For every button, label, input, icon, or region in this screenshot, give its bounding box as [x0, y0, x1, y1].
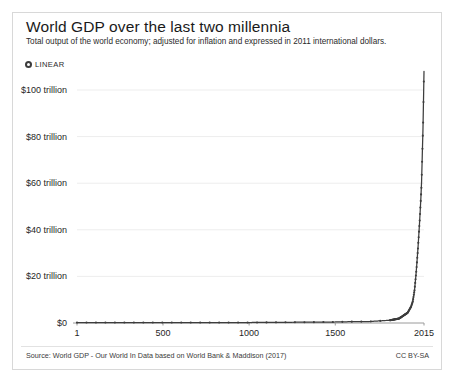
axis-lines [73, 323, 424, 326]
data-point [417, 252, 419, 254]
data-point [133, 321, 135, 323]
y-tick-label: $0 [13, 318, 67, 328]
data-point [413, 292, 415, 294]
data-point [322, 321, 324, 323]
data-point [370, 320, 372, 322]
data-point [412, 296, 414, 298]
gridlines [77, 90, 424, 276]
data-point [303, 321, 305, 323]
data-point [114, 322, 116, 324]
x-tick-label: 1000 [239, 328, 259, 338]
data-point [420, 200, 422, 202]
data-point [379, 320, 381, 322]
data-point [418, 231, 420, 233]
data-point [415, 274, 417, 276]
data-point [413, 294, 415, 296]
data-point [419, 219, 421, 221]
y-tick-label: $100 trillion [13, 85, 67, 95]
chart-card: World GDP over the last two millennia To… [12, 12, 442, 370]
footer-divider [21, 346, 433, 347]
x-tick-label: 500 [155, 328, 170, 338]
data-point [275, 321, 277, 323]
data-point [247, 321, 249, 323]
data-point [171, 321, 173, 323]
data-point [284, 321, 286, 323]
data-point [294, 321, 296, 323]
data-point [180, 321, 182, 323]
data-point [414, 286, 416, 288]
data-point [418, 225, 420, 227]
data-point [419, 206, 421, 208]
data-point [161, 321, 163, 323]
data-point [332, 321, 334, 323]
data-point [416, 261, 418, 263]
x-tick-label: 1500 [325, 328, 345, 338]
data-point [313, 321, 315, 323]
data-point [417, 242, 419, 244]
data-point [152, 321, 154, 323]
license-note: CC BY-SA [396, 351, 429, 360]
data-point [422, 122, 424, 124]
data-point [228, 321, 230, 323]
data-point [76, 322, 78, 324]
data-point [412, 298, 414, 300]
data-point [209, 321, 211, 323]
data-point [199, 321, 201, 323]
data-point [415, 271, 417, 273]
data-point [123, 321, 125, 323]
data-point [414, 282, 416, 284]
data-point [142, 321, 144, 323]
data-point [418, 236, 420, 238]
data-point [265, 321, 267, 323]
data-point [190, 321, 192, 323]
data-point [95, 322, 97, 324]
data-point [413, 289, 415, 291]
y-tick-label: $40 trillion [13, 225, 67, 235]
data-point [416, 266, 418, 268]
data-point [104, 322, 106, 324]
data-point [417, 247, 419, 249]
data-point [420, 193, 422, 195]
x-tick-label: 1 [74, 328, 79, 338]
series-markers [76, 81, 425, 324]
data-point [421, 174, 423, 176]
data-point [419, 213, 421, 215]
y-tick-label: $60 trillion [13, 178, 67, 188]
data-point [341, 321, 343, 323]
data-point [422, 101, 424, 103]
y-tick-label: $20 trillion [13, 271, 67, 281]
data-point [421, 148, 423, 150]
data-point [256, 321, 258, 323]
y-tick-label: $80 trillion [13, 132, 67, 142]
chart-canvas [13, 13, 442, 370]
data-point [420, 187, 422, 189]
data-point [351, 321, 353, 323]
data-point [237, 321, 239, 323]
source-note: Source: World GDP - Our World In Data ba… [26, 351, 286, 360]
data-point [415, 278, 417, 280]
data-point [360, 321, 362, 323]
data-point [421, 161, 423, 163]
series-line-world-gdp [77, 71, 424, 322]
data-point [85, 322, 87, 324]
plot-area: $0$20 trillion$40 trillion$60 trillion$8… [13, 13, 442, 370]
data-point [423, 81, 425, 83]
data-point [412, 300, 414, 302]
data-point [416, 257, 418, 259]
data-point [422, 135, 424, 137]
x-tick-label: 2015 [414, 328, 434, 338]
data-point [218, 321, 220, 323]
